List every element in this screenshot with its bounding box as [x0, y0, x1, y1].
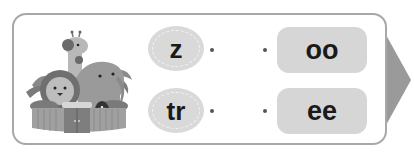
sound-circle-z[interactable]: z [148, 26, 204, 71]
sound-label: tr [167, 98, 186, 124]
sound-label: z [170, 36, 183, 62]
sound-box-oo[interactable]: oo [277, 27, 367, 73]
match-dot-left-1[interactable] [210, 48, 214, 52]
sound-label: ee [307, 98, 337, 125]
match-dot-right-1[interactable] [263, 48, 267, 52]
sound-circle-tr[interactable]: tr [148, 88, 204, 133]
match-dot-right-2[interactable] [263, 109, 267, 113]
sound-label: oo [306, 37, 339, 64]
sound-box-ee[interactable]: ee [277, 88, 367, 134]
match-dot-left-2[interactable] [210, 109, 214, 113]
zoo-animals-illustration [24, 30, 134, 136]
